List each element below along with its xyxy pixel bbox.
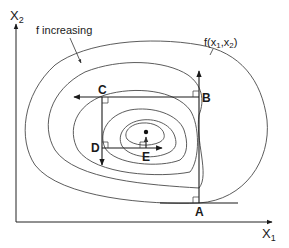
right-angle-b: [193, 91, 199, 97]
function-label: f(x1,x2): [204, 36, 237, 50]
annotations: f increasing f(x1,x2): [36, 24, 237, 63]
function-label-arrow: [210, 49, 213, 55]
label-e: E: [142, 150, 150, 164]
label-d: D: [91, 141, 100, 155]
contour-2: [48, 63, 203, 188]
f-increasing-arrow: [70, 38, 81, 63]
right-angle-a: [193, 197, 199, 203]
y-axis-label: X2: [10, 8, 24, 25]
contour-3: [73, 90, 197, 174]
x-axis-label: X1: [262, 226, 276, 243]
label-b: B: [202, 91, 211, 105]
f-increasing-label: f increasing: [36, 24, 92, 36]
label-c: C: [98, 83, 107, 97]
label-a: A: [195, 205, 204, 219]
right-angle-c: [102, 97, 108, 103]
contour-diagram: X2 X1 A B: [0, 0, 289, 248]
optimum-point: [144, 130, 148, 134]
contour-1: [25, 41, 267, 203]
contours: [25, 41, 267, 203]
